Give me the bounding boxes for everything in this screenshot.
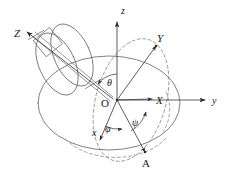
label-axis-z: z (120, 5, 125, 16)
spinning-disk (27, 18, 102, 102)
label-origin-O: O (101, 97, 109, 109)
label-angle-phi: φ (105, 123, 111, 134)
origin-dot (116, 99, 119, 102)
label-axis-X: X (155, 94, 164, 106)
euler-angles-diagram: Z z y x X Y O A θ φ ψ (0, 0, 232, 179)
label-node-point-A: A (142, 157, 150, 169)
label-angle-theta: θ (107, 77, 112, 88)
label-axis-Z: Z (14, 27, 21, 39)
axis-Y-line (117, 46, 156, 100)
label-axis-y: y (211, 95, 217, 106)
label-angle-psi: ψ (132, 117, 139, 128)
point-Y-dot (155, 45, 158, 48)
label-axis-x: x (91, 127, 97, 138)
line-of-nodes-OA (117, 100, 145, 152)
node-point-A-dot (144, 151, 147, 154)
axis-Z-line (27, 32, 113, 99)
label-axis-Y: Y (157, 32, 165, 44)
